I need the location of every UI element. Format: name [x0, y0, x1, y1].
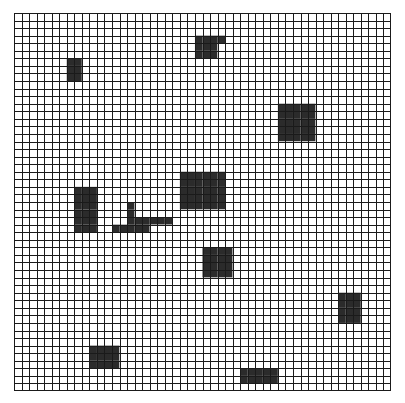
empty-cell[interactable] — [89, 179, 97, 187]
empty-cell[interactable] — [323, 338, 331, 346]
empty-cell[interactable] — [278, 255, 286, 263]
empty-cell[interactable] — [368, 81, 376, 89]
empty-cell[interactable] — [285, 202, 293, 210]
empty-cell[interactable] — [44, 73, 52, 81]
empty-cell[interactable] — [29, 383, 37, 391]
wall-cell[interactable] — [187, 194, 195, 202]
empty-cell[interactable] — [376, 96, 384, 104]
empty-cell[interactable] — [172, 73, 180, 81]
empty-cell[interactable] — [44, 217, 52, 225]
empty-cell[interactable] — [225, 232, 233, 240]
empty-cell[interactable] — [338, 353, 346, 361]
empty-cell[interactable] — [270, 58, 278, 66]
empty-cell[interactable] — [187, 285, 195, 293]
empty-cell[interactable] — [255, 232, 263, 240]
empty-cell[interactable] — [383, 376, 391, 384]
empty-cell[interactable] — [157, 247, 165, 255]
empty-cell[interactable] — [29, 81, 37, 89]
empty-cell[interactable] — [285, 338, 293, 346]
wall-cell[interactable] — [255, 376, 263, 384]
empty-cell[interactable] — [142, 315, 150, 323]
empty-cell[interactable] — [187, 300, 195, 308]
empty-cell[interactable] — [180, 300, 188, 308]
empty-cell[interactable] — [195, 217, 203, 225]
empty-cell[interactable] — [157, 285, 165, 293]
empty-cell[interactable] — [270, 217, 278, 225]
empty-cell[interactable] — [44, 187, 52, 195]
empty-cell[interactable] — [338, 376, 346, 384]
empty-cell[interactable] — [225, 111, 233, 119]
empty-cell[interactable] — [187, 383, 195, 391]
empty-cell[interactable] — [180, 134, 188, 142]
empty-cell[interactable] — [308, 194, 316, 202]
empty-cell[interactable] — [59, 232, 67, 240]
empty-cell[interactable] — [89, 96, 97, 104]
empty-cell[interactable] — [240, 285, 248, 293]
empty-cell[interactable] — [180, 376, 188, 384]
empty-cell[interactable] — [14, 43, 22, 51]
empty-cell[interactable] — [29, 73, 37, 81]
empty-cell[interactable] — [240, 232, 248, 240]
empty-cell[interactable] — [376, 73, 384, 81]
empty-cell[interactable] — [353, 111, 361, 119]
wall-cell[interactable] — [195, 187, 203, 195]
empty-cell[interactable] — [74, 126, 82, 134]
empty-cell[interactable] — [368, 66, 376, 74]
wall-cell[interactable] — [278, 134, 286, 142]
empty-cell[interactable] — [172, 164, 180, 172]
empty-cell[interactable] — [383, 43, 391, 51]
empty-cell[interactable] — [112, 217, 120, 225]
empty-cell[interactable] — [187, 164, 195, 172]
empty-cell[interactable] — [157, 255, 165, 263]
empty-cell[interactable] — [240, 353, 248, 361]
empty-cell[interactable] — [270, 43, 278, 51]
empty-cell[interactable] — [89, 247, 97, 255]
empty-cell[interactable] — [285, 179, 293, 187]
empty-cell[interactable] — [210, 315, 218, 323]
empty-cell[interactable] — [44, 194, 52, 202]
empty-cell[interactable] — [142, 43, 150, 51]
empty-cell[interactable] — [127, 376, 135, 384]
empty-cell[interactable] — [142, 255, 150, 263]
empty-cell[interactable] — [210, 28, 218, 36]
empty-cell[interactable] — [104, 383, 112, 391]
empty-cell[interactable] — [353, 323, 361, 331]
empty-cell[interactable] — [255, 338, 263, 346]
empty-cell[interactable] — [368, 353, 376, 361]
empty-cell[interactable] — [278, 66, 286, 74]
empty-cell[interactable] — [112, 126, 120, 134]
empty-cell[interactable] — [180, 255, 188, 263]
empty-cell[interactable] — [127, 270, 135, 278]
empty-cell[interactable] — [293, 285, 301, 293]
empty-cell[interactable] — [29, 315, 37, 323]
empty-cell[interactable] — [104, 149, 112, 157]
empty-cell[interactable] — [172, 134, 180, 142]
empty-cell[interactable] — [338, 255, 346, 263]
empty-cell[interactable] — [59, 194, 67, 202]
empty-cell[interactable] — [195, 315, 203, 323]
empty-cell[interactable] — [127, 262, 135, 270]
empty-cell[interactable] — [142, 96, 150, 104]
empty-cell[interactable] — [255, 255, 263, 263]
empty-cell[interactable] — [285, 194, 293, 202]
empty-cell[interactable] — [255, 217, 263, 225]
empty-cell[interactable] — [308, 73, 316, 81]
empty-cell[interactable] — [127, 368, 135, 376]
empty-cell[interactable] — [353, 285, 361, 293]
empty-cell[interactable] — [29, 300, 37, 308]
empty-cell[interactable] — [180, 43, 188, 51]
empty-cell[interactable] — [127, 164, 135, 172]
empty-cell[interactable] — [97, 217, 105, 225]
empty-cell[interactable] — [293, 376, 301, 384]
empty-cell[interactable] — [255, 149, 263, 157]
empty-cell[interactable] — [112, 323, 120, 331]
empty-cell[interactable] — [293, 187, 301, 195]
empty-cell[interactable] — [180, 81, 188, 89]
empty-cell[interactable] — [240, 202, 248, 210]
empty-cell[interactable] — [293, 28, 301, 36]
empty-cell[interactable] — [127, 111, 135, 119]
empty-cell[interactable] — [59, 58, 67, 66]
empty-cell[interactable] — [195, 368, 203, 376]
empty-cell[interactable] — [210, 73, 218, 81]
empty-cell[interactable] — [14, 96, 22, 104]
